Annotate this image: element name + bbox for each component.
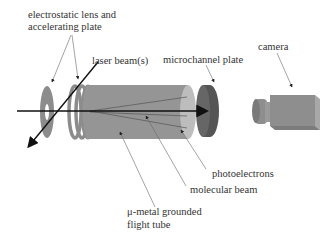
- camera: [252, 95, 320, 130]
- label-tube-line2: flight tube: [127, 219, 171, 230]
- label-molecular-beam: molecular beam: [190, 184, 257, 195]
- label-lens-line2: accelerating plate: [28, 21, 102, 32]
- label-photoelectrons: photoelectrons: [212, 168, 274, 179]
- flight-tube: [83, 85, 196, 139]
- label-microchannel-plate: microchannel plate: [163, 54, 244, 65]
- label-lens-line1: electrostatic lens and: [28, 9, 117, 20]
- diagram-canvas: electrostatic lens and accelerating plat…: [0, 0, 330, 243]
- label-laser-beam: laser beam(s): [92, 55, 149, 67]
- label-tube-line1: μ-metal grounded: [127, 206, 202, 217]
- label-camera: camera: [258, 41, 289, 52]
